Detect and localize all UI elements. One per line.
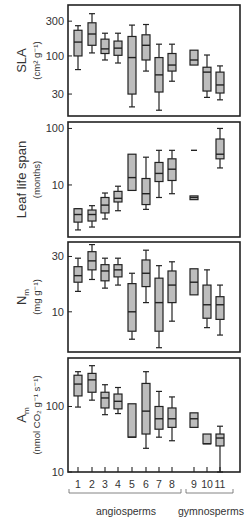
box-group-3 <box>101 193 109 219</box>
box-group-9 <box>190 269 198 295</box>
box <box>168 408 176 427</box>
box <box>74 209 82 222</box>
panel-nm: 1030Nm(mg g⁻¹) <box>14 242 240 352</box>
box-group-7 <box>155 44 163 110</box>
y-tick-label: 10 <box>52 179 64 191</box>
box <box>203 434 211 444</box>
panel-am: 10100Am(nmol CO₂ g⁻¹ s⁻¹)1234567891011 <box>14 358 240 490</box>
box-group-6 <box>142 157 150 209</box>
y-tick-label: 10 <box>52 306 64 318</box>
panel-leaf_life_span: 10100Leaf life span(months) <box>14 122 240 237</box>
box <box>155 406 163 429</box>
box <box>216 139 224 159</box>
box <box>114 265 122 277</box>
box-group-4 <box>114 33 122 63</box>
box-group-1 <box>74 372 82 407</box>
box-group-11 <box>216 66 224 100</box>
box-group-8 <box>168 262 176 321</box>
bracket-label: gymnosperms <box>178 505 244 517</box>
box <box>168 271 176 303</box>
box <box>128 36 136 94</box>
box <box>88 210 96 221</box>
box <box>128 154 136 190</box>
box-group-1 <box>74 26 82 70</box>
x-tick-label: 9 <box>191 478 197 490</box>
bracket-label: angiosperms <box>96 505 156 517</box>
box-group-10 <box>203 434 211 444</box>
x-tick-label: 5 <box>129 478 135 490</box>
y-tick-label: 100 <box>46 400 64 412</box>
box-group-10 <box>203 270 211 328</box>
box <box>142 383 150 434</box>
box <box>101 39 109 53</box>
box <box>74 375 82 396</box>
x-tick-label: 7 <box>156 478 162 490</box>
bracket-angiosperms: angiosperms <box>69 489 181 517</box>
y-axis-label: Nm <box>14 289 31 305</box>
panel-frame <box>68 5 240 116</box>
box <box>142 179 150 205</box>
y-axis-label: Am <box>14 407 31 423</box>
box <box>74 267 82 283</box>
y-tick-label: 300 <box>46 15 64 27</box>
box <box>190 413 198 428</box>
x-tick-label: 3 <box>102 478 108 490</box>
y-tick-label: 30 <box>52 88 64 100</box>
box-group-3 <box>101 258 109 288</box>
box-group-3 <box>101 33 109 60</box>
y-axis-units: (mg g⁻¹) <box>31 279 42 315</box>
y-tick-label: 100 <box>46 122 64 134</box>
box-group-11 <box>216 128 224 168</box>
box-plot-figure: 30100300SLA(cm² g⁻¹)10100Leaf life span(… <box>0 0 247 520</box>
box <box>101 392 109 408</box>
y-axis-label-main: A <box>14 414 29 423</box>
bracket-gymnosperms: gymnosperms <box>178 489 244 517</box>
x-tick-label: 4 <box>115 478 121 490</box>
box-group-4 <box>114 186 122 211</box>
box-group-2 <box>88 245 96 280</box>
x-tick-label: 2 <box>89 478 95 490</box>
box-group-4 <box>114 387 122 413</box>
y-axis-label-subscript: m <box>22 407 31 414</box>
x-tick-label: 10 <box>201 478 213 490</box>
box-group-2 <box>88 206 96 227</box>
box <box>216 297 224 320</box>
box-group-9 <box>190 150 198 199</box>
y-axis-label-subscript: m <box>22 289 31 296</box>
box <box>203 67 211 91</box>
box-group-7 <box>155 266 163 348</box>
box <box>216 72 224 93</box>
box <box>190 50 198 65</box>
box-group-6 <box>142 250 150 302</box>
box-group-10 <box>203 55 211 97</box>
box <box>216 434 224 446</box>
box <box>128 404 136 437</box>
y-tick-label: 100 <box>46 50 64 62</box>
box-group-5 <box>128 273 136 339</box>
y-axis-label: SLA <box>14 48 29 73</box>
box-group-7 <box>155 150 163 197</box>
y-axis-units: (months) <box>31 161 42 198</box>
y-axis-label: Leaf life span <box>14 141 29 218</box>
box <box>155 162 163 181</box>
x-tick-label: 11 <box>215 478 226 490</box>
y-axis-units: (cm² g⁻¹) <box>31 41 42 79</box>
panel-sla: 30100300SLA(cm² g⁻¹) <box>14 5 240 116</box>
box-group-4 <box>114 258 122 285</box>
y-tick-label: 10 <box>52 466 64 478</box>
box <box>128 284 136 332</box>
box-group-11 <box>216 285 224 335</box>
box-group-2 <box>88 366 96 400</box>
box-group-11 <box>216 426 224 472</box>
box <box>74 30 82 56</box>
box-group-5 <box>128 25 136 107</box>
box-group-3 <box>101 385 109 415</box>
x-tick-label: 1 <box>75 478 81 490</box>
box <box>88 373 96 392</box>
box-group-6 <box>142 25 150 72</box>
box-group-1 <box>74 258 82 291</box>
box-group-2 <box>88 14 96 53</box>
box-group-8 <box>168 397 176 441</box>
box-group-6 <box>142 372 150 449</box>
box <box>203 285 211 318</box>
